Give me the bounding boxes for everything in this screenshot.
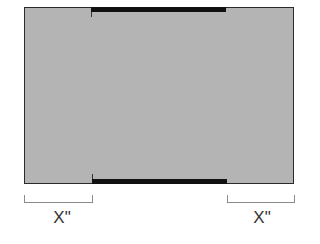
top-bar-left-tick bbox=[91, 12, 92, 17]
left-dimension-label: X" bbox=[42, 208, 82, 228]
top-edge-bar bbox=[91, 7, 226, 12]
right-dimension-label: X" bbox=[242, 208, 282, 228]
bottom-bar-left-tick bbox=[92, 174, 93, 179]
right-dimension-bracket bbox=[227, 195, 295, 203]
bottom-edge-bar bbox=[92, 179, 227, 184]
left-dimension-bracket bbox=[24, 195, 93, 203]
panel-rectangle bbox=[24, 7, 294, 184]
